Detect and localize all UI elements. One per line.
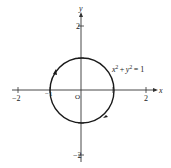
orientation-arrow-icon [103, 115, 108, 118]
x-axis-arrow-icon [153, 88, 158, 92]
equation-label: x2+y2= 1 [111, 64, 144, 74]
unit-circle [50, 58, 114, 123]
y-tick-label-neg2: −2 [73, 151, 82, 160]
x-tick-label-neg2: −2 [12, 94, 21, 103]
unit-circle-graph: y x O −2 −1 2 2 −2 x2+y2= 1 [0, 0, 171, 168]
origin-label: O [75, 93, 80, 101]
y-tick-label-2: 2 [76, 22, 80, 31]
y-axis-label: y [78, 4, 83, 13]
x-axis-label: x [158, 86, 163, 95]
svg-text:x2+y2= 1: x2+y2= 1 [111, 64, 144, 74]
x-tick-label-2: 2 [144, 94, 148, 103]
x-tick-label-neg1: −1 [45, 90, 53, 98]
